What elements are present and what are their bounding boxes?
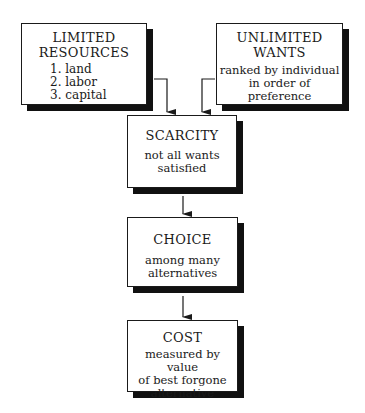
subtitle-line: alternative bbox=[128, 387, 237, 400]
node-title: COST bbox=[128, 330, 237, 345]
title-line: UNLIMITED bbox=[217, 30, 342, 45]
subtitle-line: measured by value bbox=[128, 348, 237, 374]
title-line: RESOURCES bbox=[22, 45, 146, 60]
node-subtitle: among many alternatives bbox=[128, 254, 237, 280]
subtitle-line: satisfied bbox=[128, 162, 236, 175]
node-scarcity: SCARCITY not all wants satisfied bbox=[127, 115, 237, 188]
resource-list: 1. land 2. labor 3. capital bbox=[22, 63, 146, 102]
title-line: LIMITED bbox=[22, 30, 146, 45]
node-title: SCARCITY bbox=[128, 128, 236, 143]
node-subtitle: not all wants satisfied bbox=[128, 149, 236, 175]
node-unlimited-wants: UNLIMITED WANTS ranked by individual in … bbox=[216, 23, 343, 105]
node-title: LIMITED RESOURCES bbox=[22, 30, 146, 60]
node-cost: COST measured by value of best forgone a… bbox=[127, 320, 238, 392]
node-subtitle: measured by value of best forgone altern… bbox=[128, 348, 237, 400]
node-limited-resources: LIMITED RESOURCES 1. land 2. labor 3. ca… bbox=[21, 23, 147, 105]
node-title: CHOICE bbox=[128, 232, 237, 247]
subtitle-line: alternatives bbox=[128, 267, 237, 280]
subtitle-line: preference bbox=[217, 90, 342, 103]
node-title: UNLIMITED WANTS bbox=[217, 30, 342, 60]
arrow-resources-to-scarcity bbox=[154, 79, 167, 112]
title-line: WANTS bbox=[217, 45, 342, 60]
list-item: 3. capital bbox=[50, 89, 146, 102]
node-subtitle: ranked by individual in order of prefere… bbox=[217, 64, 342, 103]
node-choice: CHOICE among many alternatives bbox=[127, 217, 238, 287]
arrow-wants-to-scarcity bbox=[202, 79, 215, 112]
